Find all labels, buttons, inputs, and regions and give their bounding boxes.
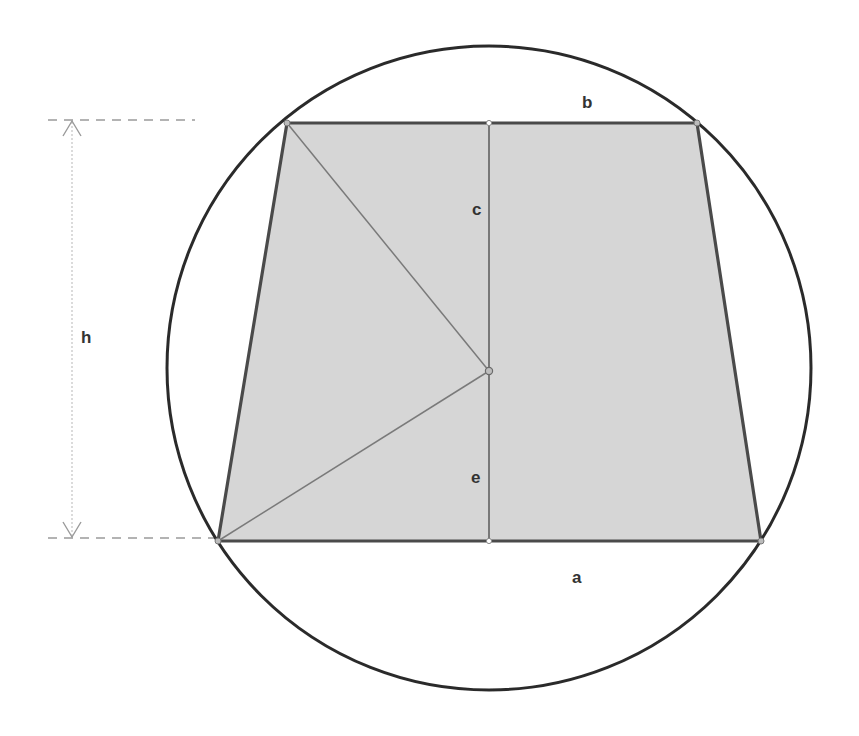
trapezoid-in-circle-diagram: b c h e a	[0, 0, 859, 736]
vertex-bottom-left	[215, 538, 221, 544]
label-h: h	[81, 328, 91, 347]
label-a: a	[572, 568, 582, 587]
midpoint-top	[486, 120, 491, 125]
midpoint-bottom	[486, 538, 491, 543]
label-b: b	[582, 93, 592, 112]
circumcenter-point	[485, 367, 492, 374]
vertex-bottom-right	[758, 538, 764, 544]
vertex-top-right	[694, 120, 700, 126]
label-c: c	[472, 200, 481, 219]
label-e: e	[471, 468, 480, 487]
vertex-top-left	[284, 120, 290, 126]
